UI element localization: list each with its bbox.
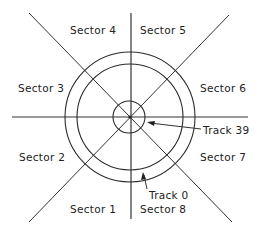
sector-7-label: Sector 7 xyxy=(200,151,246,163)
sector-3-label: Sector 3 xyxy=(18,82,64,94)
disk-sector-diagram: Sector 1 Sector 2 Sector 3 Sector 4 Sect… xyxy=(0,0,262,235)
sector-6-label: Sector 6 xyxy=(200,82,246,94)
sector-4-label: Sector 4 xyxy=(70,24,116,36)
sector-2-label: Sector 2 xyxy=(19,151,65,163)
sector-5-label: Sector 5 xyxy=(140,24,186,36)
sector-8-label: Sector 8 xyxy=(140,203,186,215)
track-39-arrow-line xyxy=(150,123,201,129)
track-0-arrowhead-icon xyxy=(141,172,146,180)
diagonal-divider-ne-sw xyxy=(29,15,229,222)
track-0-label: Track 0 xyxy=(148,189,189,201)
sector-1-label: Sector 1 xyxy=(70,203,116,215)
center-dot xyxy=(128,115,131,118)
track-39-label: Track 39 xyxy=(202,124,250,136)
track-39-arrowhead-icon xyxy=(147,121,155,126)
